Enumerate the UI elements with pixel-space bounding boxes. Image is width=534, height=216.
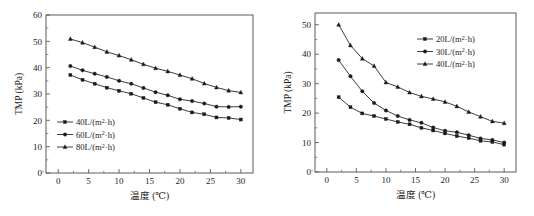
data-point-circle-1-1 <box>81 69 85 73</box>
x-tick-label-5: 5 <box>354 175 359 185</box>
data-point-square-0-0 <box>69 74 72 77</box>
data-point-circle-1-2 <box>93 72 97 76</box>
legend-label-0: 40L/(m2·h) <box>76 117 115 127</box>
data-point-circle-1-5 <box>129 82 133 86</box>
legend-label-suffix-1: ·h) <box>465 47 475 57</box>
y-tick-label-20: 20 <box>302 108 312 118</box>
legend-label-prefix-0: 40L/(m <box>76 117 102 127</box>
data-point-circle-1-12 <box>479 137 483 141</box>
data-point-circle-1-1 <box>349 75 353 79</box>
y-tick-label-30: 30 <box>302 79 312 89</box>
x-tick-label-0: 0 <box>56 176 61 186</box>
x-tick-label-25: 25 <box>470 175 480 185</box>
data-point-circle-legend-1 <box>423 50 427 54</box>
data-point-circle-1-9 <box>443 129 447 133</box>
legend: 20L/(m2·h)30L/(m2·h)40L/(m2·h) <box>417 34 475 69</box>
data-point-circle-1-9 <box>178 98 182 102</box>
right-chart-svg: 05101520253001020304050温度 (℃)TMP (kPa)20… <box>267 0 534 216</box>
data-point-circle-1-10 <box>455 131 459 135</box>
data-point-circle-1-3 <box>105 75 109 79</box>
data-point-circle-1-13 <box>491 138 495 142</box>
y-axis-title: TMP (kPa) <box>283 71 294 113</box>
data-point-circle-1-6 <box>408 118 412 122</box>
left-chart-svg: 0510152025300102030405060温度 (℃)TMP (kPa)… <box>0 0 267 216</box>
y-tick-label-0: 0 <box>307 167 312 177</box>
data-point-circle-1-7 <box>420 121 424 125</box>
data-point-circle-1-14 <box>239 105 243 109</box>
x-tick-label-20: 20 <box>441 175 451 185</box>
data-point-square-0-8 <box>166 103 169 106</box>
data-point-square-0-9 <box>178 107 181 110</box>
data-point-triangle-2-3 <box>372 64 376 68</box>
y-tick-label-0: 0 <box>38 168 43 178</box>
legend-label-suffix-0: ·h) <box>465 34 475 44</box>
legend-label-prefix-1: 30L/(m <box>436 47 462 57</box>
data-point-circle-1-5 <box>396 114 400 118</box>
legend-label-1: 30L/(m2·h) <box>436 47 475 57</box>
x-tick-label-10: 10 <box>115 176 125 186</box>
y-tick-label-60: 60 <box>33 10 43 20</box>
series-square <box>69 74 242 122</box>
series-line-0 <box>70 75 240 120</box>
data-point-square-0-7 <box>420 126 423 129</box>
two-panel-line-chart-figure: 0510152025300102030405060温度 (℃)TMP (kPa)… <box>0 0 534 216</box>
data-point-square-0-5 <box>396 120 399 123</box>
y-tick-label-30: 30 <box>33 89 43 99</box>
data-point-square-0-6 <box>142 96 145 99</box>
y-tick-label-10: 10 <box>302 138 312 148</box>
legend-label-suffix-1: ·h) <box>105 130 115 140</box>
x-tick-label-25: 25 <box>206 176 216 186</box>
data-point-circle-1-8 <box>166 94 170 98</box>
y-tick-label-40: 40 <box>33 63 43 73</box>
data-point-circle-1-2 <box>361 90 365 94</box>
x-tick-label-30: 30 <box>236 176 246 186</box>
series-line-2 <box>339 25 505 123</box>
data-point-square-0-5 <box>130 92 133 95</box>
data-point-square-0-7 <box>154 101 157 104</box>
data-point-circle-1-8 <box>431 126 435 129</box>
x-tick-label-0: 0 <box>325 175 330 185</box>
legend-label-prefix-0: 20L/(m <box>436 34 462 44</box>
x-axis-ticks: 051015202530 <box>312 168 509 185</box>
legend-label-prefix-1: 60L/(m <box>76 130 102 140</box>
data-point-square-0-12 <box>215 116 218 119</box>
data-point-circle-1-0 <box>69 64 73 68</box>
series-triangle <box>337 23 506 125</box>
data-point-square-0-2 <box>361 112 364 115</box>
data-point-triangle-2-0 <box>68 37 72 41</box>
data-point-square-0-14 <box>239 118 242 121</box>
x-axis-title: 温度 (℃) <box>396 189 435 201</box>
y-axis-title: TMP (kPa) <box>14 73 25 115</box>
data-point-circle-1-12 <box>215 105 219 109</box>
data-point-circle-1-4 <box>117 79 121 83</box>
data-point-square-legend-0 <box>64 121 67 124</box>
data-point-square-0-2 <box>93 82 96 85</box>
x-tick-label-30: 30 <box>500 175 510 185</box>
x-tick-label-5: 5 <box>86 176 91 186</box>
y-tick-label-40: 40 <box>302 49 312 59</box>
series-line-1 <box>339 60 505 142</box>
data-point-square-0-1 <box>349 106 352 109</box>
data-point-square-0-10 <box>191 111 194 114</box>
data-point-square-0-4 <box>118 89 121 92</box>
y-axis-ticks: 0102030405060 <box>33 10 50 178</box>
legend-label-2: 80L/(m2·h) <box>76 142 115 152</box>
data-point-square-0-13 <box>227 116 230 119</box>
data-point-square-0-1 <box>81 78 84 81</box>
legend-label-1: 60L/(m2·h) <box>76 130 115 140</box>
legend-label-suffix-0: ·h) <box>105 117 115 127</box>
x-tick-label-15: 15 <box>145 176 155 186</box>
data-point-square-0-4 <box>384 118 387 121</box>
data-point-square-0-0 <box>337 96 340 99</box>
data-point-circle-1-11 <box>203 102 207 106</box>
y-tick-label-20: 20 <box>33 116 43 126</box>
data-point-circle-1-4 <box>384 109 388 113</box>
chart-panel-left: 0510152025300102030405060温度 (℃)TMP (kPa)… <box>0 0 267 216</box>
data-point-triangle-2-0 <box>337 23 341 27</box>
legend-label-2: 40L/(m2·h) <box>436 59 475 69</box>
data-point-square-0-10 <box>455 135 458 138</box>
series-circle <box>337 58 506 144</box>
data-point-circle-1-13 <box>227 105 231 109</box>
data-point-square-0-3 <box>373 115 376 118</box>
chart-panel-right: 05101520253001020304050温度 (℃)TMP (kPa)20… <box>267 0 534 216</box>
